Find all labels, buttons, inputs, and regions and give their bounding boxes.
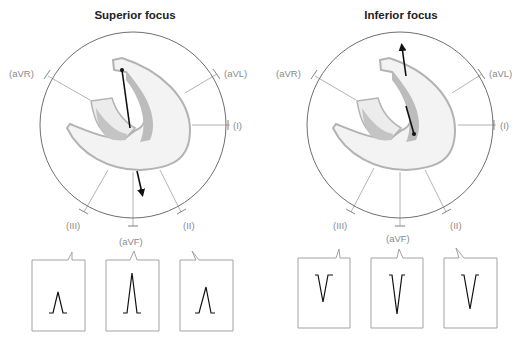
label-ii: (II) [450, 220, 462, 231]
label-avr: (aVR) [276, 68, 301, 79]
label-iii: (III) [66, 220, 80, 231]
label-i: (I) [500, 120, 509, 131]
ecg-box-avf [371, 249, 423, 328]
panel-superior-focus: Superior focus [9, 9, 247, 331]
label-i: (I) [233, 120, 242, 131]
label-avl: (aVL) [489, 68, 512, 79]
panel-title: Inferior focus [364, 9, 437, 21]
panel-inferior-focus: Inferior focus (aVR) (aVL [276, 9, 512, 328]
ecg-boxes [298, 248, 497, 328]
label-avf: (aVF) [386, 233, 410, 244]
label-iii: (III) [333, 220, 347, 231]
label-avl: (aVL) [224, 68, 247, 79]
ecg-box-ii [444, 248, 497, 328]
label-avf: (aVF) [119, 236, 143, 247]
focus-dot [412, 132, 416, 136]
focus-dot [120, 68, 124, 72]
heart-ventricles-illustration [333, 58, 455, 170]
label-avr: (aVR) [9, 68, 34, 79]
ecg-boxes [32, 251, 233, 331]
ecg-box-iii [298, 249, 350, 328]
ecg-box-avf [106, 251, 159, 331]
panel-title: Superior focus [94, 9, 175, 21]
label-ii: (II) [183, 220, 195, 231]
ecg-box-iii [32, 252, 85, 331]
vector-arrow-down-icon [137, 171, 142, 193]
